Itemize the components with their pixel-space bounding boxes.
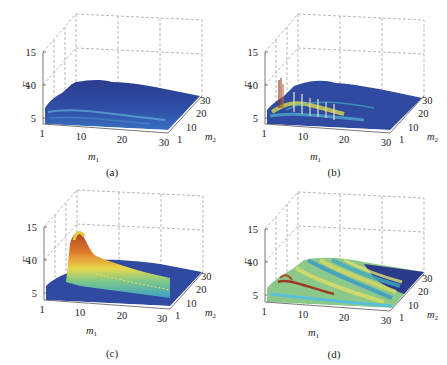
y-axis-label: m2 bbox=[427, 131, 439, 144]
svg-text:30: 30 bbox=[422, 95, 433, 106]
svg-text:10: 10 bbox=[76, 131, 87, 142]
svg-text:20: 20 bbox=[418, 108, 429, 119]
svg-text:20: 20 bbox=[117, 134, 128, 145]
svg-text:15: 15 bbox=[26, 47, 37, 58]
z-axis-label: F bbox=[21, 256, 32, 264]
surface-plot-b: 15 10 5 1 10 20 30 1 10 20 30 F m1 m2 (b… bbox=[224, 0, 447, 182]
surface bbox=[46, 232, 202, 308]
svg-text:20: 20 bbox=[418, 286, 429, 297]
panel-caption: (a) bbox=[106, 166, 119, 179]
x-axis-label: m1 bbox=[308, 327, 320, 340]
svg-text:20: 20 bbox=[196, 284, 207, 295]
svg-text:20: 20 bbox=[339, 134, 350, 145]
svg-text:10: 10 bbox=[186, 298, 197, 309]
y-axis-label: m2 bbox=[205, 131, 217, 144]
svg-text:1: 1 bbox=[175, 310, 180, 321]
svg-text:1: 1 bbox=[39, 304, 44, 315]
z-axis-label: F bbox=[21, 81, 32, 89]
svg-text:30: 30 bbox=[422, 273, 433, 284]
svg-text:30: 30 bbox=[381, 315, 392, 326]
x-axis-label: m1 bbox=[310, 151, 322, 164]
panel-a: 15 10 5 1 10 20 30 1 10 20 30 F m1 m2 (a… bbox=[0, 0, 224, 182]
surface bbox=[267, 258, 424, 310]
svg-text:15: 15 bbox=[248, 224, 259, 235]
surface-plot-c: 15 10 5 1 10 20 30 1 10 20 30 F m1 m2 (c… bbox=[0, 182, 224, 365]
panel-b: 15 10 5 1 10 20 30 1 10 20 30 F m1 m2 (b… bbox=[224, 0, 447, 182]
panel-caption: (d) bbox=[328, 348, 341, 361]
y-axis-label: m2 bbox=[427, 309, 439, 322]
svg-text:10: 10 bbox=[408, 122, 419, 133]
panel-caption: (c) bbox=[106, 347, 119, 360]
svg-text:10: 10 bbox=[75, 307, 86, 318]
panel-c: 15 10 5 1 10 20 30 1 10 20 30 F m1 m2 (c… bbox=[0, 182, 224, 364]
surface-plot-d: 15 10 5 1 10 20 30 1 10 20 30 F m1 m2 (d… bbox=[224, 182, 447, 365]
svg-text:10: 10 bbox=[298, 131, 309, 142]
svg-text:30: 30 bbox=[159, 137, 170, 148]
figure: 15 10 5 1 10 20 30 1 10 20 30 F m1 m2 (a… bbox=[0, 0, 447, 365]
svg-text:10: 10 bbox=[408, 300, 419, 311]
svg-text:5: 5 bbox=[31, 113, 36, 124]
svg-text:15: 15 bbox=[27, 222, 38, 233]
svg-text:30: 30 bbox=[381, 137, 392, 148]
svg-text:5: 5 bbox=[32, 288, 37, 299]
y-axis-label: m2 bbox=[205, 307, 217, 320]
svg-text:10: 10 bbox=[298, 309, 309, 320]
svg-text:1: 1 bbox=[261, 306, 266, 317]
svg-text:20: 20 bbox=[196, 108, 207, 119]
svg-text:10: 10 bbox=[186, 122, 197, 133]
svg-text:5: 5 bbox=[253, 290, 258, 301]
x-axis-label: m1 bbox=[88, 151, 100, 164]
x-axis-label: m1 bbox=[86, 325, 98, 338]
svg-text:15: 15 bbox=[248, 47, 259, 58]
svg-text:30: 30 bbox=[157, 313, 168, 324]
svg-text:30: 30 bbox=[201, 271, 212, 282]
svg-text:20: 20 bbox=[117, 310, 128, 321]
z-axis-label: F bbox=[243, 81, 254, 89]
svg-text:1: 1 bbox=[39, 128, 44, 139]
panel-caption: (b) bbox=[328, 166, 341, 179]
svg-text:30: 30 bbox=[200, 95, 211, 106]
surface-plot-a: 15 10 5 1 10 20 30 1 10 20 30 F m1 m2 (a… bbox=[0, 0, 224, 182]
svg-text:1: 1 bbox=[261, 128, 266, 139]
svg-text:1: 1 bbox=[177, 134, 182, 145]
svg-text:1: 1 bbox=[399, 312, 404, 323]
svg-text:5: 5 bbox=[253, 113, 258, 124]
svg-text:1: 1 bbox=[399, 134, 404, 145]
surface bbox=[45, 80, 200, 132]
z-axis-label: F bbox=[243, 258, 254, 266]
svg-text:20: 20 bbox=[339, 312, 350, 323]
panel-d: 15 10 5 1 10 20 30 1 10 20 30 F m1 m2 (d… bbox=[224, 182, 447, 364]
